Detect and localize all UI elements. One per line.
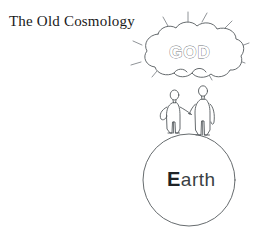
right-person-head-icon [199, 86, 208, 96]
ray-bottom-left-icon [152, 71, 157, 77]
ray-top-right-icon [202, 13, 207, 22]
god-text: GOD [169, 43, 211, 62]
glory-cloud: GOD [145, 22, 244, 77]
earth-sphere: Earth [143, 134, 235, 226]
earth-label-rest: arth [181, 169, 216, 190]
illustration-canvas: The Old Cosmology GOD Earth [0, 0, 262, 233]
ray-left-icon [133, 41, 142, 45]
earth-label-cap: E [167, 168, 181, 190]
ray-lower-left-icon [131, 62, 141, 65]
ray-upper-right-icon [224, 21, 232, 29]
ray-top-left-icon [163, 17, 168, 26]
left-person [160, 90, 191, 133]
earth-label: Earth [167, 168, 216, 190]
left-person-left-arm [160, 107, 167, 120]
cosmology-drawing: GOD Earth [0, 0, 262, 233]
right-person-right-arm [210, 104, 214, 124]
right-person [190, 86, 215, 135]
left-person-head-icon [170, 90, 179, 100]
